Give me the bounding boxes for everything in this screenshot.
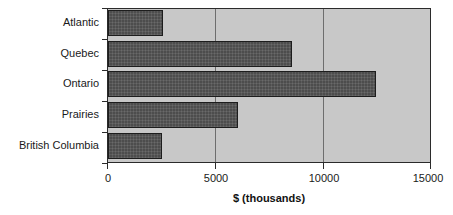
xtick-label-15000: 15000 (413, 172, 444, 184)
category-label-ontario: Ontario (63, 70, 99, 96)
plot-area (107, 8, 431, 163)
category-label-atlantic: Atlantic (63, 9, 99, 35)
bar-ontario[interactable] (108, 71, 376, 97)
xtick-mark-0 (107, 163, 108, 169)
category-label-quebec: Quebec (60, 40, 99, 66)
bar-quebec[interactable] (108, 41, 292, 67)
bar-british-columbia[interactable] (108, 133, 162, 159)
xtick-label-0: 0 (105, 172, 111, 184)
bars-layer (108, 9, 430, 162)
category-axis-labels: Atlantic Quebec Ontario Prairies British… (0, 8, 103, 163)
bar-atlantic[interactable] (108, 10, 163, 36)
xtick-mark-5000 (215, 163, 216, 169)
category-label-prairies: Prairies (62, 101, 99, 127)
bar-chart: Atlantic Quebec Ontario Prairies British… (0, 0, 453, 215)
xtick-mark-10000 (323, 163, 324, 169)
xtick-label-5000: 5000 (204, 172, 228, 184)
xtick-mark-15000 (430, 163, 431, 169)
bar-prairies[interactable] (108, 102, 238, 128)
xtick-label-10000: 10000 (309, 172, 340, 184)
category-label-british-columbia: British Columbia (19, 132, 99, 158)
x-axis-title: $ (thousands) (107, 192, 431, 204)
